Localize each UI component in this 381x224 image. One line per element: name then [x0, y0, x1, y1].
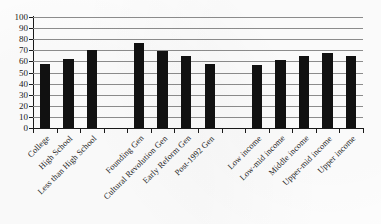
y-tick-label: 50 — [19, 68, 28, 77]
x-tick-mark — [127, 129, 128, 133]
x-axis-category-label: Upper-mid income — [281, 134, 334, 187]
x-tick-mark — [80, 129, 81, 133]
bar — [134, 43, 144, 128]
x-tick-mark — [339, 129, 340, 133]
x-tick-mark — [222, 129, 223, 133]
x-tick-mark — [316, 129, 317, 133]
bar — [252, 65, 262, 128]
bar — [275, 60, 285, 128]
x-axis-category-label: Middle income — [267, 134, 311, 178]
x-tick-mark — [174, 129, 175, 133]
y-tick-label: 90 — [19, 24, 28, 33]
x-tick-mark — [151, 129, 152, 133]
bar — [346, 56, 356, 128]
y-tick-label: 100 — [15, 13, 29, 22]
bar — [322, 53, 332, 128]
x-axis-category-label: Less than High School — [36, 134, 98, 196]
x-axis-category-label: Low-mid income — [238, 134, 287, 183]
x-tick-mark — [33, 129, 34, 133]
y-tick-label: 40 — [19, 79, 28, 88]
bar — [181, 56, 191, 128]
y-tick-label: 70 — [19, 46, 28, 55]
x-axis-category-label: Early Reform Gen — [141, 134, 193, 186]
y-tick-label: 60 — [19, 57, 28, 66]
x-tick-mark — [245, 129, 246, 133]
y-tick-label: 30 — [19, 90, 28, 99]
x-tick-mark — [198, 129, 199, 133]
bar — [40, 64, 50, 128]
bar-chart: 0102030405060708090100 CollegeHigh Schoo… — [0, 0, 381, 224]
x-tick-mark — [269, 129, 270, 133]
plot-area: 0102030405060708090100 — [33, 17, 363, 128]
x-axis-category-label: College — [26, 134, 52, 160]
x-axis-category-label: Cultural Revolution Gen — [102, 134, 169, 201]
x-tick-mark — [104, 129, 105, 133]
y-tick-label: 0 — [24, 124, 29, 133]
x-axis-category-label: Upper income — [316, 134, 357, 175]
bar — [157, 51, 167, 128]
x-axis-category-label: High School — [37, 134, 74, 171]
y-tick-label: 10 — [19, 112, 28, 121]
x-tick-mark — [57, 129, 58, 133]
y-tick-label: 20 — [19, 101, 28, 110]
bar — [63, 59, 73, 128]
x-axis-ticks — [33, 129, 364, 134]
x-tick-mark — [292, 129, 293, 133]
bar — [299, 56, 309, 128]
y-tick-label: 80 — [19, 35, 28, 44]
bar-series — [33, 17, 363, 128]
x-tick-mark — [363, 129, 364, 133]
x-axis-category-label: Post-1992 Gen — [173, 134, 216, 177]
bar — [87, 50, 97, 128]
x-axis-category-label: Founding Gen — [104, 134, 146, 176]
bar — [205, 64, 215, 128]
x-axis-category-label: Low income — [226, 134, 263, 171]
